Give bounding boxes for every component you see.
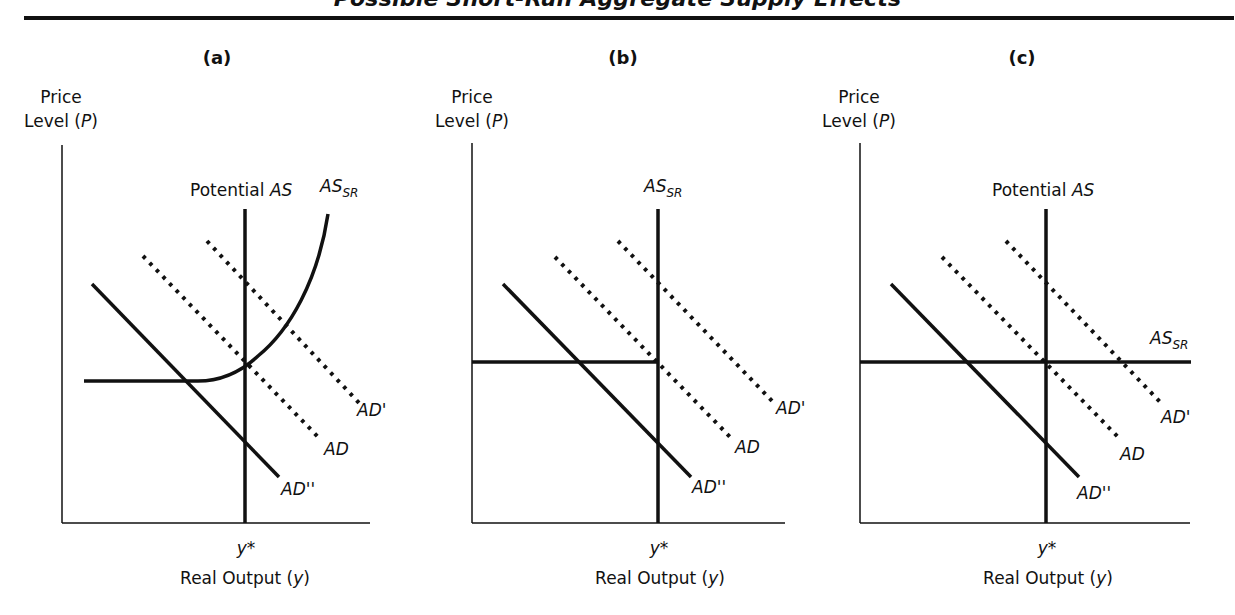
panel-c-ad-double-prime-line <box>891 284 1079 477</box>
panel-a-plot <box>62 145 370 523</box>
panel-c-as-sr-label: ASSR <box>1150 328 1188 348</box>
panel-a-potential-as-label: Potential AS <box>190 180 292 200</box>
diagram-canvas <box>0 0 1235 615</box>
panel-a-ad-label: AD <box>324 439 349 459</box>
panel-c-plot <box>860 143 1191 523</box>
panel-b-ad-label: AD <box>735 437 760 457</box>
panel-a-ad-double-prime-label: AD'' <box>281 479 315 499</box>
panel-b-plot <box>472 143 785 523</box>
panel-a-as-sr-label: ASSR <box>320 176 358 196</box>
panel-c-ad-prime-label: AD' <box>1161 407 1190 427</box>
panel-a-ad-line <box>143 256 321 440</box>
panel-b-ad-prime-label: AD' <box>776 398 805 418</box>
panel-a-x-tick-y-star: y* <box>237 538 256 558</box>
panel-a-ad-prime-label: AD' <box>357 400 386 420</box>
panel-b-ad-line <box>555 257 733 440</box>
panel-b-x-axis-label: Real Output (y) <box>595 568 725 588</box>
panel-a-x-axis-label: Real Output (y) <box>180 568 310 588</box>
panel-c-ad-label: AD <box>1120 444 1145 464</box>
panel-c-ad-prime-line <box>1006 241 1162 404</box>
panel-a-as-sr-curve <box>84 214 328 381</box>
panel-b-x-tick-y-star: y* <box>650 538 669 558</box>
panel-b-as-sr-label: ASSR <box>644 176 682 196</box>
panel-c-ad-line <box>942 257 1121 440</box>
panel-c-x-axis-label: Real Output (y) <box>983 568 1113 588</box>
panel-c-potential-as-label: Potential AS <box>992 180 1094 200</box>
panel-c-x-tick-y-star: y* <box>1038 538 1057 558</box>
panel-a-ad-prime-line <box>207 241 361 405</box>
panel-b-ad-double-prime-line <box>503 284 691 477</box>
panel-b-ad-prime-line <box>618 241 774 403</box>
panel-c-ad-double-prime-label: AD'' <box>1077 483 1111 503</box>
panel-b-ad-double-prime-label: AD'' <box>692 477 726 497</box>
